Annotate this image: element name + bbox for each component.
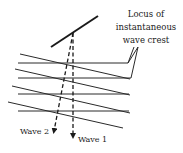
annotation-leaders bbox=[128, 47, 138, 78]
annotation-line-1: Locus of bbox=[128, 9, 165, 19]
wave1-crests bbox=[18, 63, 131, 111]
annotation-line-3: wave crest bbox=[123, 35, 170, 45]
wave1-label: Wave 1 bbox=[78, 135, 107, 144]
wave2-crests bbox=[8, 54, 130, 128]
locus-line bbox=[51, 16, 98, 47]
annotation-line-2: instantaneous bbox=[116, 22, 176, 32]
wave2-label: Wave 2 bbox=[20, 127, 49, 136]
wave-crest-diagram: Locus of instantaneous wave crest Wave 2… bbox=[0, 0, 183, 153]
